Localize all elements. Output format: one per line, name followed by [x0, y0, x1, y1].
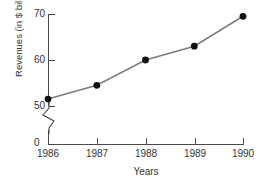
x-tick-label-1987: 1987 — [77, 148, 117, 159]
y-axis-title: Revenues (in $ billions) — [13, 0, 24, 98]
data-point-1987 — [93, 82, 100, 89]
y-tick-label-50: 50 — [34, 105, 45, 106]
y-tick-label-0: 0 — [34, 137, 40, 148]
line-chart: Revenues (in $ billions) 70 60 50 0 1986… — [0, 0, 266, 188]
x-tick-label-1990: 1990 — [223, 148, 263, 159]
series-markers — [45, 13, 247, 103]
x-tick-label-1989: 1989 — [175, 148, 215, 159]
x-axis-title: Years — [48, 166, 244, 177]
data-point-1988 — [142, 57, 149, 64]
data-point-1986 — [45, 96, 52, 103]
x-axis-line — [48, 144, 244, 145]
data-point-1989 — [191, 43, 198, 50]
x-tick-label-1988: 1988 — [126, 148, 166, 159]
y-tick-label-60: 60 — [34, 59, 45, 60]
plot-area: 70 60 50 0 1986 1987 1988 1989 1990 — [48, 14, 244, 144]
data-series-revenues — [48, 14, 244, 144]
y-tick-label-70: 70 — [34, 13, 45, 14]
x-tick-label-1986: 1986 — [28, 148, 68, 159]
data-point-1990 — [240, 13, 247, 20]
